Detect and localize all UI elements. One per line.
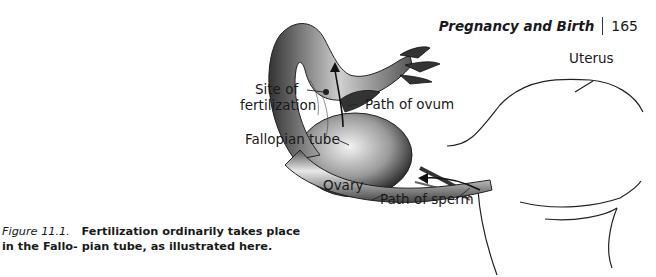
label-path-of-ovum: Path of ovum: [365, 96, 454, 112]
label-site-of-fertilization-1: Site of: [255, 81, 298, 97]
label-ovary: Ovary: [323, 177, 363, 193]
label-path-of-sperm: Path of sperm: [380, 191, 474, 207]
uterus-outline: [447, 79, 643, 275]
label-uterus: Uterus: [569, 50, 614, 66]
label-fallopian-tube: Fallopian tube: [245, 131, 340, 147]
figure-number: Figure 11.1.: [2, 225, 70, 238]
label-site-of-fertilization-2: fertilization: [240, 97, 316, 113]
figure-caption: Figure 11.1. Fertilization ordinarily ta…: [2, 224, 302, 254]
